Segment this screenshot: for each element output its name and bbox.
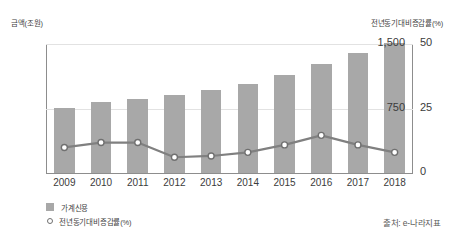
chart-container: 금액(조원) 전년동기대비증감률(%) 7501,500 02550 20092… (0, 0, 451, 243)
y-tick-left-750: 750 (0, 101, 412, 113)
y-tick-right-50: 50 (420, 36, 432, 48)
x-tick-2017: 2017 (347, 177, 369, 188)
line-marker-2018 (392, 149, 398, 155)
source-note: 출처: e-나라지표 (383, 216, 441, 228)
legend-label: 전년동기대비증감률(%) (59, 216, 131, 227)
chart-legend: 가계신용전년동기대비증감률(%) (46, 200, 131, 228)
y-tick-left-1,500: 1,500 (0, 36, 412, 48)
x-tick-2015: 2015 (273, 177, 295, 188)
legend-circle-icon (47, 218, 53, 224)
x-tick-2012: 2012 (163, 177, 185, 188)
x-tick-2013: 2013 (200, 177, 222, 188)
legend-item-2[interactable]: 전년동기대비증감률(%) (46, 214, 131, 228)
line-markers (61, 132, 397, 160)
x-axis-line (46, 173, 413, 174)
legend-square-icon (46, 203, 54, 211)
x-tick-2009: 2009 (53, 177, 75, 188)
x-tick-2010: 2010 (90, 177, 112, 188)
line-marker-2013 (208, 153, 214, 159)
line-marker-2010 (98, 140, 104, 146)
line-marker-2012 (171, 154, 177, 160)
x-tick-2018: 2018 (384, 177, 406, 188)
line-marker-2015 (282, 142, 288, 148)
x-tick-2014: 2014 (237, 177, 259, 188)
x-tick-2016: 2016 (310, 177, 332, 188)
line-marker-2017 (355, 142, 361, 148)
line-marker-2016 (318, 132, 324, 138)
x-tick-2011: 2011 (127, 177, 149, 188)
left-axis-title: 금액(조원) (11, 17, 43, 28)
line-path (64, 135, 394, 157)
line-marker-2011 (135, 140, 141, 146)
legend-label: 가계신용 (61, 202, 88, 213)
line-marker-2009 (61, 144, 67, 150)
y-tick-right-0: 0 (420, 165, 426, 177)
line-marker-2014 (245, 149, 251, 155)
y-tick-right-25: 25 (420, 101, 432, 113)
right-axis-title: 전년동기대비증감률(%) (371, 17, 443, 28)
legend-item-1[interactable]: 가계신용 (46, 200, 131, 214)
